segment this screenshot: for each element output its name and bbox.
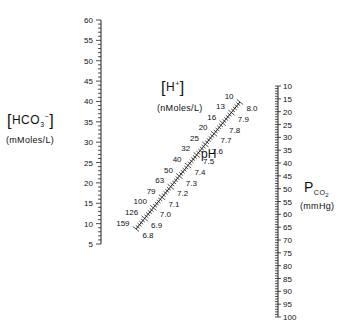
h-ion-tick-label: 32 (181, 144, 190, 153)
hco3-tick-label: 30 (84, 138, 93, 147)
pco2-tick-label: 25 (283, 121, 292, 130)
pco2-tick-label: 75 (283, 249, 292, 258)
ph-scale-title: pH (201, 148, 216, 160)
pco2-scale-title: PCO2 (304, 180, 329, 199)
ph-tick-label: 8.0 (246, 104, 258, 113)
pco2-scale-unit: (mmHg) (300, 202, 334, 211)
h-ion-tick-label: 79 (147, 187, 156, 196)
pco2-scale-axis: 101520253035404550556065707580859095100 (275, 82, 297, 322)
hco3-tick-label: 55 (84, 36, 93, 45)
hco3-tick-label: 60 (84, 16, 93, 25)
hco3-scale-axis: 60555045403530252015105 (84, 16, 101, 249)
hco3-tick-label: 35 (84, 118, 93, 127)
hco3-tick-label: 15 (84, 199, 93, 208)
pco2-tick-label: 40 (283, 159, 292, 168)
h-ion-tick-label: 13 (216, 102, 225, 111)
pco2-tick-label: 95 (283, 300, 292, 309)
hco3-scale-title: [HCO3−] (7, 113, 54, 129)
pco2-tick-label: 30 (283, 133, 292, 142)
hco3-tick-label: 5 (89, 240, 94, 249)
hco3-scale-unit: (mMoles/L) (6, 136, 54, 145)
ph-tick-label: 7.7 (220, 136, 232, 145)
pco2-tick-label: 45 (283, 172, 292, 181)
hco3-tick-label: 10 (84, 220, 93, 229)
h-ion-tick-label: 159 (116, 219, 130, 228)
pco2-tick-label: 55 (283, 198, 292, 207)
ph-tick-label: 6.8 (142, 231, 154, 240)
pco2-tick-label: 80 (283, 262, 292, 271)
ph-tick-label: 7.8 (229, 126, 241, 135)
hco3-tick-label: 45 (84, 77, 93, 86)
ph-tick-label: 7.4 (194, 168, 206, 177)
pco2-tick-label: 15 (283, 95, 292, 104)
hco3-tick-label: 25 (84, 159, 93, 168)
pco2-tick-label: 10 (283, 82, 292, 91)
h-ion-tick-label: 20 (199, 123, 208, 132)
pco2-tick-label: 20 (283, 108, 292, 117)
h-ion-scale-title: [H+] (161, 80, 185, 96)
pco2-tick-label: 70 (283, 236, 292, 245)
h-ion-tick-label: 126 (125, 208, 139, 217)
ph-tick-label: 7.3 (186, 179, 198, 188)
hco3-tick-label: 20 (84, 179, 93, 188)
ph-tick-label: 7.0 (160, 210, 172, 219)
pco2-tick-label: 85 (283, 275, 292, 284)
hco3-tick-label: 40 (84, 97, 93, 106)
pco2-tick-label: 60 (283, 210, 292, 219)
pco2-tick-label: 90 (283, 287, 292, 296)
acid-base-nomogram: 60555045403530252015105 6.81596.91267.01… (0, 0, 352, 334)
hco3-tick-label: 50 (84, 57, 93, 66)
ph-tick-label: 6.9 (151, 221, 163, 230)
pco2-tick-label: 50 (283, 185, 292, 194)
h-ion-scale-unit: (nMoles/L) (157, 104, 203, 113)
h-ion-tick-label: 100 (134, 197, 148, 206)
h-ion-tick-label: 25 (190, 134, 199, 143)
ph-tick-label: 7.1 (168, 200, 180, 209)
pco2-tick-label: 35 (283, 146, 292, 155)
h-ion-tick-label: 40 (173, 155, 182, 164)
ph-tick-label: 7.9 (238, 115, 250, 124)
h-ion-tick-label: 50 (164, 166, 173, 175)
pco2-tick-label: 100 (283, 313, 297, 322)
h-ion-tick-label: 63 (155, 176, 164, 185)
h-ion-tick-label: 16 (207, 113, 216, 122)
h-ion-tick-label: 10 (225, 92, 234, 101)
h-ph-scale-axis: 6.81596.91267.01007.1797.2637.3507.4407.… (116, 92, 258, 241)
pco2-tick-label: 65 (283, 223, 292, 232)
ph-tick-label: 7.2 (177, 189, 189, 198)
